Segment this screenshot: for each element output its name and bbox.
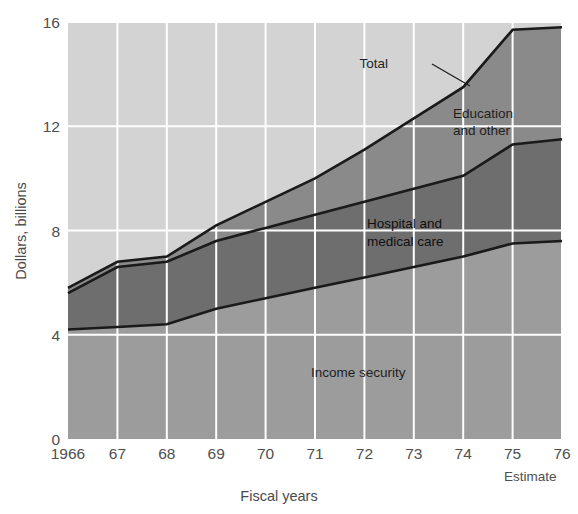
x-tick-label: 67 bbox=[109, 445, 126, 462]
y-tick-label: 4 bbox=[51, 327, 60, 344]
y-tick-label: 8 bbox=[51, 223, 60, 240]
x-tick-label: 74 bbox=[455, 445, 473, 462]
x-tick-label: 71 bbox=[306, 445, 323, 462]
y-tick-label: 12 bbox=[43, 118, 60, 135]
y-tick-label: 16 bbox=[43, 14, 60, 31]
series-label-income-security: Income security bbox=[311, 365, 406, 380]
estimate-annotation: Estimate bbox=[504, 469, 557, 484]
x-tick-label: 75 bbox=[504, 445, 521, 462]
series-label-education-line2: and other bbox=[453, 123, 511, 138]
veterans-benefits-area-chart: 0481216 196667686970717273747576 Total E… bbox=[0, 0, 578, 514]
x-tick-label: 69 bbox=[208, 445, 225, 462]
y-axis-title: Dollars, billions bbox=[13, 182, 29, 280]
series-label-education-line1: Education bbox=[453, 106, 513, 121]
x-tick-label: 76 bbox=[553, 445, 570, 462]
x-tick-label: 70 bbox=[257, 445, 275, 462]
x-axis-title: Fiscal years bbox=[240, 488, 317, 504]
x-tick-label: 73 bbox=[405, 445, 422, 462]
series-label-hospital-line2: medical care bbox=[367, 234, 444, 249]
series-label-total: Total bbox=[359, 56, 388, 71]
x-tick-label: 1966 bbox=[51, 445, 85, 462]
chart-container: 0481216 196667686970717273747576 Total E… bbox=[0, 0, 578, 514]
x-tick-label: 68 bbox=[158, 445, 175, 462]
series-label-hospital-line1: Hospital and bbox=[367, 216, 442, 231]
x-tick-label: 72 bbox=[356, 445, 373, 462]
